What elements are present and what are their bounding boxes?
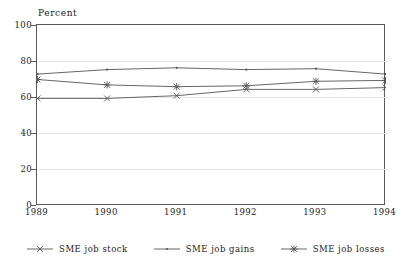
x-tick-label-1993: 1993 bbox=[303, 207, 326, 217]
y-tick-mark-0 bbox=[31, 205, 36, 206]
x-tick-label-1990: 1990 bbox=[94, 207, 117, 217]
data-point-2-3 bbox=[243, 82, 250, 89]
data-point-1-3 bbox=[245, 69, 247, 71]
data-point-2-2 bbox=[173, 83, 180, 90]
y-tick-label-100: 100 bbox=[15, 20, 32, 30]
y-axis-title: Percent bbox=[38, 8, 77, 18]
legend-label-2: SME job losses bbox=[313, 244, 385, 254]
data-point-1-0 bbox=[37, 73, 39, 75]
series-canvas bbox=[37, 25, 386, 206]
chart-legend: SME job stockSME job gainsSME job losses bbox=[0, 243, 412, 255]
x-tick-label-1989: 1989 bbox=[25, 207, 48, 217]
legend-marker-asterisk-icon bbox=[281, 243, 307, 255]
plot-area bbox=[36, 24, 385, 205]
legend-marker-x-cross-icon bbox=[27, 243, 53, 255]
legend-label-1: SME job gains bbox=[186, 244, 255, 254]
data-point-1-1 bbox=[106, 69, 108, 71]
data-point-1-4 bbox=[315, 68, 317, 70]
series-line-1 bbox=[38, 68, 386, 74]
legend-label-0: SME job stock bbox=[59, 244, 128, 254]
legend-item-0[interactable]: SME job stock bbox=[27, 243, 128, 255]
series-line-0 bbox=[38, 88, 386, 99]
chart-figure: Percent 020406080100 1989199019911992199… bbox=[0, 0, 412, 274]
data-point-2-4 bbox=[312, 78, 319, 85]
x-tick-label-1994: 1994 bbox=[373, 207, 396, 217]
legend-item-2[interactable]: SME job losses bbox=[281, 243, 385, 255]
data-point-2-5 bbox=[382, 77, 386, 84]
data-point-2-0 bbox=[37, 76, 41, 83]
legend-item-1[interactable]: SME job gains bbox=[154, 243, 255, 255]
series-line-2 bbox=[38, 80, 386, 87]
y-axis-tick-labels: 020406080100 bbox=[0, 0, 32, 274]
x-tick-label-1991: 1991 bbox=[164, 207, 187, 217]
data-point-2-1 bbox=[104, 81, 111, 88]
data-point-1-5 bbox=[384, 73, 386, 75]
legend-marker-dot-icon bbox=[154, 243, 180, 255]
x-tick-label-1992: 1992 bbox=[234, 207, 257, 217]
data-point-1-2 bbox=[176, 67, 178, 69]
